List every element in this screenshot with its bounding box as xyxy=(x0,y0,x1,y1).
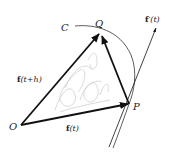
label-f-t: f(t) xyxy=(66,123,79,133)
vector-derivative-diagram: C Q O P f′(t) f(t+h) f(t) xyxy=(0,0,172,153)
label-p: P xyxy=(132,101,140,112)
tangent-vector-fprime xyxy=(109,28,156,147)
label-o: O xyxy=(9,121,17,132)
label-f-t-plus-h: f(t+h) xyxy=(17,74,42,84)
scribble-shading xyxy=(55,53,110,112)
label-c: C xyxy=(61,22,69,33)
vector-difference xyxy=(102,36,129,104)
label-fprime: f′(t) xyxy=(145,14,160,24)
label-q: Q xyxy=(95,18,103,29)
